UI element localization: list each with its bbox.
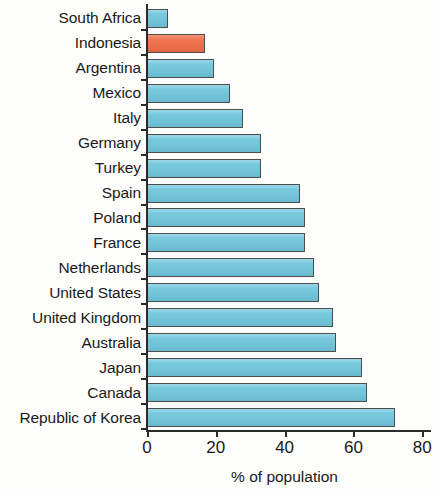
y-axis-tick: [141, 378, 147, 380]
bar: [147, 159, 261, 178]
bar-row: Canada: [147, 380, 431, 405]
y-axis-line: [146, 4, 148, 432]
y-axis-tick: [141, 278, 147, 280]
bar: [147, 208, 305, 227]
bar-category-label: Spain: [102, 184, 141, 202]
y-axis-tick: [141, 204, 147, 206]
bar-row: Netherlands: [147, 255, 431, 280]
bar: [147, 258, 314, 277]
bar: [147, 408, 395, 427]
y-axis-tick: [141, 179, 147, 181]
bar: [147, 184, 300, 203]
x-axis-title: % of population: [0, 468, 439, 486]
y-axis-tick: [141, 403, 147, 405]
bar: [147, 9, 168, 28]
bar: [147, 59, 214, 78]
y-axis-tick: [141, 228, 147, 230]
bar-row: France: [147, 230, 431, 255]
bar-row: South Africa: [147, 6, 431, 31]
bar-category-label: Argentina: [76, 59, 141, 77]
bar-category-label: Turkey: [95, 159, 141, 177]
plot-area: South AfricaIndonesiaArgentinaMexicoItal…: [147, 6, 431, 430]
bar-row: Spain: [147, 181, 431, 206]
y-axis-tick: [141, 253, 147, 255]
bar-category-label: South Africa: [59, 9, 141, 27]
bar-row: United Kingdom: [147, 305, 431, 330]
y-axis-tick: [141, 129, 147, 131]
x-axis-tick: [147, 432, 149, 437]
x-axis-tick-label: 80: [413, 438, 432, 458]
bar-row: Indonesia: [147, 31, 431, 56]
bar: [147, 84, 230, 103]
bar-category-label: Japan: [99, 359, 141, 377]
bar-category-label: France: [93, 234, 141, 252]
bar-category-label: United States: [49, 284, 141, 302]
bar-category-label: Italy: [113, 109, 141, 127]
bar: [147, 308, 333, 327]
bar-row: Argentina: [147, 56, 431, 81]
bar-chart: South AfricaIndonesiaArgentinaMexicoItal…: [0, 0, 439, 495]
x-axis-tick-label: 0: [142, 438, 151, 458]
bar-category-label: Canada: [87, 384, 141, 402]
bar-row: United States: [147, 280, 431, 305]
bar-row: Italy: [147, 106, 431, 131]
bar-category-label: Germany: [78, 134, 141, 152]
y-axis-tick: [141, 154, 147, 156]
x-axis-tick: [422, 432, 424, 437]
y-axis-tick: [141, 303, 147, 305]
x-axis-title-text: % of population: [101, 468, 338, 485]
bar: [147, 134, 261, 153]
bar: [147, 333, 336, 352]
bar-category-label: Republic of Korea: [19, 409, 141, 427]
bar-row: Mexico: [147, 81, 431, 106]
bar-row: Poland: [147, 206, 431, 231]
bar-row: Germany: [147, 131, 431, 156]
x-axis-tick-label: 20: [206, 438, 225, 458]
bar: [147, 383, 367, 402]
x-axis-tick-label: 40: [275, 438, 294, 458]
bar-row: Turkey: [147, 156, 431, 181]
bar-row: Japan: [147, 355, 431, 380]
bar: [147, 358, 362, 377]
y-axis-tick: [141, 79, 147, 81]
bar-category-label: United Kingdom: [32, 309, 141, 327]
x-axis-tick: [353, 432, 355, 437]
y-axis-tick: [141, 104, 147, 106]
y-axis-tick: [141, 328, 147, 330]
y-axis-tick: [141, 54, 147, 56]
bar-category-label: Poland: [93, 209, 141, 227]
bar: [147, 109, 243, 128]
bar-row: Australia: [147, 330, 431, 355]
bar-category-label: Netherlands: [59, 259, 141, 277]
x-axis-line: [146, 430, 431, 432]
y-axis-tick: [141, 428, 147, 430]
bar-category-label: Mexico: [93, 84, 142, 102]
x-axis-tick: [285, 432, 287, 437]
bar: [147, 34, 205, 53]
bar: [147, 283, 319, 302]
bar-category-label: Australia: [82, 334, 141, 352]
y-axis-tick: [141, 353, 147, 355]
bar-row: Republic of Korea: [147, 405, 431, 430]
bar: [147, 233, 305, 252]
x-axis-tick: [216, 432, 218, 437]
x-axis-tick-label: 60: [344, 438, 363, 458]
bar-category-label: Indonesia: [75, 34, 141, 52]
y-axis-tick: [141, 29, 147, 31]
